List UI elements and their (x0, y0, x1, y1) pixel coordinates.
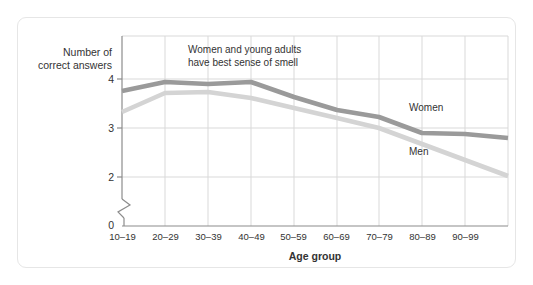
y-tick-label-3: 3 (96, 123, 114, 133)
y-tick-label-2: 2 (96, 172, 114, 182)
x-tick-label-60-69: 60–69 (315, 231, 358, 242)
y-tick-label-4: 4 (96, 74, 114, 84)
plot-svg (0, 0, 533, 285)
y-tick-label-0: 0 (96, 220, 114, 230)
y-tick-marks (117, 79, 122, 177)
x-tick-label-20-29: 20–29 (144, 231, 187, 242)
x-tick-label-80-89: 80–89 (401, 231, 444, 242)
x-tick-label-50-59: 50–59 (272, 231, 315, 242)
chart-annotation: Women and young adults have best sense o… (188, 44, 368, 69)
x-tick-label-70-79: 70–79 (358, 231, 401, 242)
smell-test-line-chart: Number of correct answers 4 3 2 0 10–19 … (0, 0, 533, 285)
x-tick-label-30-39: 30–39 (187, 231, 230, 242)
y-axis-break-symbol (118, 199, 130, 218)
x-axis-title: Age group (122, 250, 508, 263)
series-label-men: Men (409, 146, 428, 158)
series-label-women: Women (409, 102, 443, 114)
x-tick-label-90-99: 90–99 (444, 231, 487, 242)
x-tick-label-40-49: 40–49 (230, 231, 273, 242)
x-tick-label-10-19: 10–19 (101, 231, 144, 242)
y-axis-title: Number of correct answers (24, 46, 112, 72)
